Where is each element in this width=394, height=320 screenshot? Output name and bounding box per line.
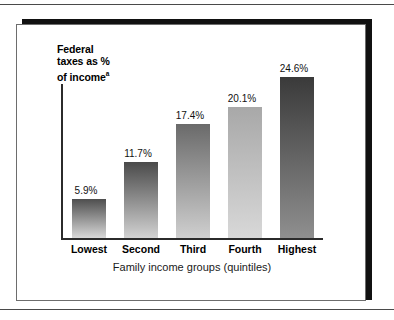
x-axis-tick-label: Lowest	[60, 243, 118, 255]
bar[interactable]	[280, 77, 314, 238]
figure-frame: Federaltaxes as %of incomea 5.9%11.7%17.…	[16, 24, 366, 301]
bar[interactable]	[176, 124, 210, 238]
bar-value-label: 17.4%	[167, 110, 213, 121]
bar-slot: 17.4%	[173, 65, 213, 238]
bar-slot: 24.6%	[277, 65, 317, 238]
y-axis-caption-line-1: Federal	[57, 43, 94, 55]
bar[interactable]	[124, 162, 158, 238]
bar-slot: 5.9%	[69, 65, 109, 238]
bar[interactable]	[72, 199, 106, 238]
page-rule-bottom	[0, 309, 394, 310]
x-axis-title: Family income groups (quintiles)	[17, 261, 367, 273]
bar-value-label: 20.1%	[219, 93, 265, 104]
x-axis-tick-label: Fourth	[216, 243, 274, 255]
x-axis-tick-label: Second	[112, 243, 170, 255]
bar-value-label: 24.6%	[271, 63, 317, 74]
x-axis-tick-label: Third	[164, 243, 222, 255]
bar-slot: 20.1%	[225, 65, 265, 238]
page-rule-top	[0, 4, 394, 5]
chart-plot-area: Federaltaxes as %of incomea 5.9%11.7%17.…	[17, 25, 367, 302]
x-axis-line	[61, 238, 323, 240]
bar-value-label: 5.9%	[63, 185, 109, 196]
bar-series: 5.9%11.7%17.4%20.1%24.6%	[63, 65, 323, 238]
bar-value-label: 11.7%	[115, 148, 161, 159]
x-axis-tick-label: Highest	[268, 243, 326, 255]
bar[interactable]	[228, 107, 262, 238]
x-axis-tick-labels: LowestSecondThirdFourthHighest	[63, 243, 323, 259]
bar-slot: 11.7%	[121, 65, 161, 238]
